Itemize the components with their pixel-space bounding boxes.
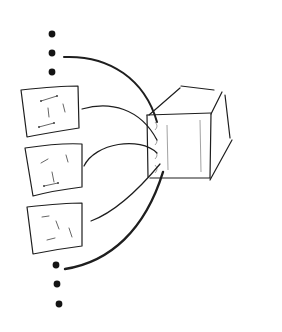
ellipsis-dot xyxy=(49,50,56,57)
card-outline xyxy=(27,203,82,254)
ellipsis-dot xyxy=(56,301,63,308)
ellipsis-dot xyxy=(49,69,56,76)
card-mark xyxy=(41,96,57,101)
card-mark xyxy=(66,155,68,162)
card-mark-dot xyxy=(56,95,58,97)
card-mark-dot xyxy=(40,100,42,102)
edge-card-3-to-box xyxy=(91,164,160,221)
card-mark xyxy=(47,238,55,240)
ellipsis-dot xyxy=(53,262,60,269)
card-mark xyxy=(69,228,72,237)
card-mark xyxy=(56,221,59,229)
box-front-left xyxy=(147,115,148,177)
card-mark xyxy=(52,172,54,182)
sketch-diagram xyxy=(0,0,282,332)
card-mark-dot xyxy=(43,185,45,187)
ellipsis-dot xyxy=(54,281,61,288)
box-front-right xyxy=(210,114,211,178)
ellipsis-top xyxy=(49,31,56,76)
box-back-right xyxy=(225,95,230,138)
edge-ellipsis-bottom-to-box xyxy=(65,172,163,269)
edge-card-1-to-box xyxy=(82,106,157,140)
ellipsis-bottom xyxy=(53,262,63,308)
card-3 xyxy=(27,203,82,254)
card-outline xyxy=(21,86,79,137)
card-mark-dot xyxy=(53,122,55,124)
card-mark xyxy=(63,104,65,112)
card-mark xyxy=(39,123,54,127)
card-2 xyxy=(25,144,82,196)
card-mark xyxy=(42,216,49,217)
box-front-top xyxy=(147,113,211,115)
port-1 xyxy=(155,122,157,130)
box-shading xyxy=(200,120,201,172)
edge-card-2-to-box xyxy=(84,144,157,166)
card-mark-dot xyxy=(57,182,59,184)
ellipsis-dot xyxy=(49,31,56,38)
box-top-edge-right xyxy=(211,92,222,114)
box xyxy=(147,86,232,180)
box-shading xyxy=(167,125,168,170)
card-mark xyxy=(44,183,58,186)
card-mark-dot xyxy=(38,126,40,128)
diagram-svg xyxy=(0,0,282,332)
card-mark xyxy=(41,159,48,163)
card-mark xyxy=(48,108,49,117)
card-1 xyxy=(21,86,79,137)
box-bottom-right xyxy=(210,140,232,180)
card-outline xyxy=(25,144,82,196)
box-top-edge-back xyxy=(181,86,214,90)
